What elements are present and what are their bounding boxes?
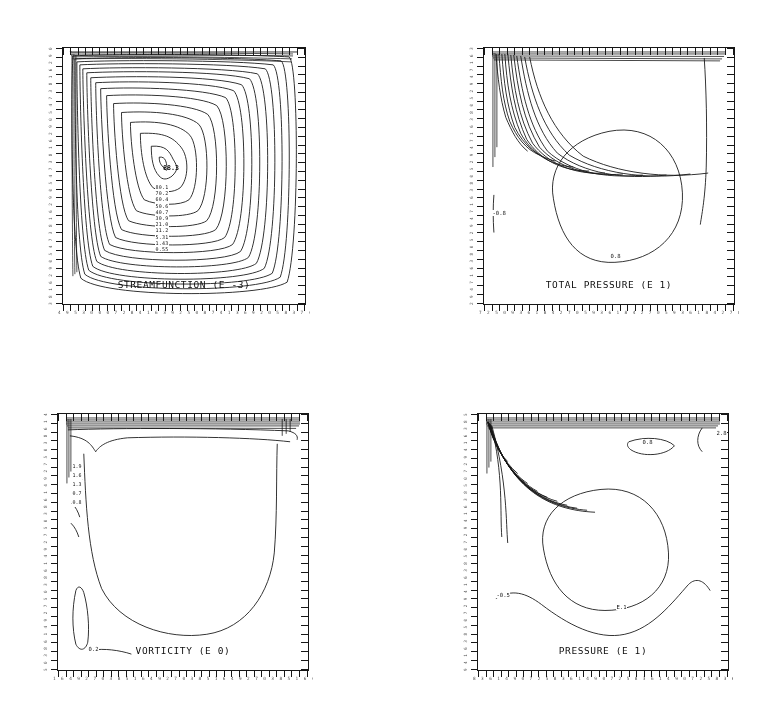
- contour-canvas-vorticity: [58, 414, 308, 670]
- tick-rail-top: [478, 414, 728, 421]
- panel-total-pressure: -0.8 0.8 TOTAL PRESSURE (E 1) 2 9 4 7 1 …: [462, 34, 752, 334]
- x-axis-micro-labels: 7 2 5 0 9 3 6 1 8 4 2 7 0 5 9 3 6 1 8 4 …: [479, 310, 739, 316]
- contour-label: 0.55: [155, 246, 169, 252]
- contour-label-stack: 80.1 70.2 60.4 50.6 40.7 30.9 21.0 11.2 …: [155, 184, 169, 252]
- tick-rail-top: [58, 414, 308, 421]
- plot-frame: 0.8 2.8 E.1 -0.5 PRESSURE (E 1): [477, 413, 729, 671]
- contour-label: 0.8: [642, 439, 653, 445]
- y-axis-micro-labels: 9 4 1 6 3 8 5 0 7 2 9 4 1 6 3 8 5 0 7 2 …: [463, 413, 474, 671]
- panel-caption: TOTAL PRESSURE (E 1): [484, 279, 734, 290]
- contour-center-label: 88.3: [163, 164, 179, 172]
- contour-label: -0.5: [496, 592, 510, 598]
- contour-label: 2.8: [716, 430, 727, 436]
- x-axis-micro-labels: 4 9 5 3 0 0 0 7 2 8 4 1 6 3 9 2 5 0 8 7 …: [58, 310, 310, 316]
- y-axis-micro-labels: 2 9 4 7 1 6 3 8 0 5 2 9 4 7 1 6 3 8 0 5 …: [469, 47, 480, 305]
- tick-rail-right: [298, 48, 305, 304]
- y-axis-micro-labels: 3 8 1 6 2 9 0 5 4 7 3 8 1 6 2 9 0 5 4 7 …: [48, 47, 59, 305]
- contour-label-stack: 1.9 1.6 1.3 0.7 0.8: [72, 462, 82, 507]
- contour-label: 1.9: [72, 462, 82, 471]
- contour-label: E.1: [616, 604, 627, 610]
- plot-frame: -0.8 0.8 TOTAL PRESSURE (E 1): [483, 47, 735, 305]
- tick-rail-right: [727, 48, 734, 304]
- x-axis-micro-labels: 8 3 6 1 4 9 0 7 2 5 8 3 6 1 4 9 0 7 2 5 …: [473, 676, 733, 682]
- figure-sheet: 88.3 80.1 70.2 60.4 50.6 40.7 30.9 21.0 …: [0, 0, 771, 701]
- tick-rail-top: [63, 48, 305, 55]
- x-axis-micro-labels: 1 6 4 9 2 7 0 3 8 5 1 6 4 9 2 7 0 3 8 5 …: [53, 676, 313, 682]
- contour-canvas-total-pressure: [484, 48, 734, 304]
- tick-rail-right: [301, 414, 308, 670]
- contour-label: 0.7: [72, 489, 82, 498]
- panel-caption: PRESSURE (E 1): [478, 645, 728, 656]
- panel-vorticity: 1.9 1.6 1.3 0.7 0.8 0.2 VORTICITY (E 0) …: [36, 400, 326, 700]
- panel-streamfunction: 88.3 80.1 70.2 60.4 50.6 40.7 30.9 21.0 …: [42, 34, 322, 334]
- contour-label: 0.8: [72, 498, 82, 507]
- plot-frame: 1.9 1.6 1.3 0.7 0.8 0.2 VORTICITY (E 0): [57, 413, 309, 671]
- plot-frame: 88.3 80.1 70.2 60.4 50.6 40.7 30.9 21.0 …: [62, 47, 306, 305]
- contour-label: 1.3: [72, 480, 82, 489]
- panel-caption: VORTICITY (E 0): [58, 645, 308, 656]
- y-axis-micro-labels: 5 0 3 8 6 1 4 9 2 7 5 0 3 8 6 1 4 9 2 7 …: [43, 413, 54, 671]
- contour-label: 0.8: [610, 253, 621, 259]
- panel-caption: STREAMFUNCTION (E -3): [63, 279, 305, 290]
- contour-canvas-streamfunction: [63, 48, 305, 304]
- panel-pressure: 0.8 2.8 E.1 -0.5 PRESSURE (E 1) 9 4 1 6 …: [456, 400, 752, 700]
- tick-rail-right: [721, 414, 728, 670]
- contour-canvas-pressure: [478, 414, 728, 670]
- contour-label: 1.6: [72, 471, 82, 480]
- contour-label: -0.8: [492, 210, 506, 216]
- tick-rail-top: [484, 48, 734, 55]
